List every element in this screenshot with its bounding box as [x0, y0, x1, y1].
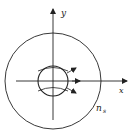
region-label-subscript: s — [103, 107, 106, 114]
x-axis-label: x — [119, 86, 124, 95]
diagram-canvas: y x n s — [0, 0, 128, 137]
y-axis-label: y — [60, 8, 67, 18]
upper-arrow — [67, 68, 76, 73]
lower-arrow — [67, 88, 76, 93]
region-label-n: n — [96, 103, 102, 113]
